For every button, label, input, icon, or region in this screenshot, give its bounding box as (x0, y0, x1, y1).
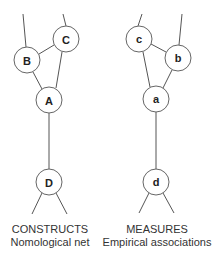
node-B-label: B (23, 55, 31, 67)
measures-title: MEASURES (126, 223, 188, 235)
node-c-label: c (136, 33, 142, 45)
edge-c-top (63, 14, 66, 26)
nomological-net-diagram: B C A D CONSTRUCTS Nomological net c b a… (0, 0, 223, 260)
edge-c-top-m (138, 14, 142, 26)
edge-d-left-leg-m (139, 193, 149, 213)
node-d-label: d (153, 176, 160, 188)
edge-c-b-m (151, 44, 166, 52)
constructs-title: CONSTRUCTS (12, 223, 88, 235)
edge-b-c (39, 45, 54, 54)
node-C-label: C (62, 34, 70, 46)
node-b-label: b (175, 52, 182, 64)
edge-b-top (23, 14, 26, 47)
node-a-label: a (153, 93, 160, 105)
edge-d-right-leg-m (163, 193, 174, 213)
edge-c-a-m (143, 52, 150, 87)
edge-b-top-m (179, 14, 182, 45)
edge-d-right-leg (56, 193, 67, 214)
edge-c-a (56, 52, 62, 88)
edge-b-a (33, 72, 42, 89)
node-A-label: A (45, 95, 53, 107)
edge-d-left-leg (32, 193, 42, 214)
node-D-label: D (45, 177, 53, 189)
measures-network: c b a d MEASURES Empirical associations (103, 14, 212, 248)
measures-subtitle: Empirical associations (103, 236, 212, 248)
constructs-subtitle: Nomological net (11, 236, 90, 248)
edge-b-a-m (163, 70, 172, 88)
constructs-network: B C A D CONSTRUCTS Nomological net (11, 14, 90, 248)
